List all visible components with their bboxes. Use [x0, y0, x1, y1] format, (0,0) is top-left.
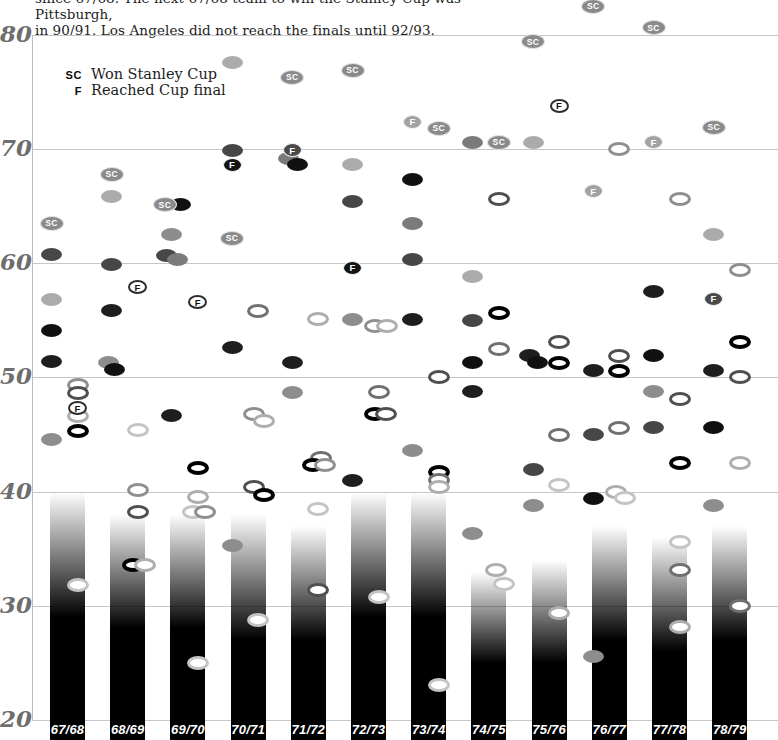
season-backdrop-74-75 — [471, 572, 506, 740]
season-label-box-67-68: 67/68 — [50, 718, 85, 740]
ring-pit — [187, 461, 209, 475]
annotation-line-1: since 67/68. The next 67/68 team to win … — [35, 0, 515, 22]
dot-chi — [462, 356, 483, 369]
ring-pit — [253, 488, 275, 502]
ring-pit — [729, 335, 751, 349]
dot-bos — [41, 293, 62, 306]
legend: SC Won Stanley Cup F Reached Cup final — [58, 66, 226, 98]
ring-la — [428, 370, 450, 384]
season-label-78-79: 78/79 — [713, 722, 747, 737]
f-badge-key: F — [58, 85, 82, 97]
season-backdrop-76-77 — [592, 526, 627, 740]
ring-cle — [669, 535, 691, 549]
dot-nyr — [583, 428, 604, 441]
badge-f-bos: F — [644, 135, 663, 149]
season-label-76-77: 76/77 — [593, 722, 627, 737]
badge-f-chi: F — [223, 158, 242, 172]
season-label-box-71-72: 71/72 — [291, 718, 326, 740]
gridline-50 — [32, 377, 778, 378]
dot-chi — [703, 421, 724, 434]
season-backdrop-72-73 — [351, 492, 386, 740]
badge-f-stl: F — [128, 280, 147, 294]
season-label-77-78: 77/78 — [653, 722, 687, 737]
season-backdrop-71-72 — [291, 526, 326, 740]
legend-label-f: Reached Cup final — [91, 82, 226, 98]
legend-label-sc: Won Stanley Cup — [91, 66, 217, 82]
season-label-box-70-71: 70/71 — [231, 718, 266, 740]
y-tick-label-80: 80 — [0, 21, 29, 47]
ring-la — [548, 335, 570, 349]
dot-tor — [282, 356, 303, 369]
ring-phi — [127, 483, 149, 497]
badge-f-nyr: F — [283, 143, 302, 157]
ring-cal — [548, 478, 570, 492]
dot-mtl — [462, 136, 483, 149]
ring-stl — [729, 599, 751, 613]
badge-sc-bos: SC — [153, 197, 177, 212]
dot-det — [222, 539, 243, 552]
season-backdrop-73-74 — [411, 492, 446, 740]
badge-f-nyr: F — [704, 292, 723, 306]
ring-min — [187, 490, 209, 504]
season-label-72-73: 72/73 — [352, 722, 386, 737]
badge-f-chi: F — [343, 261, 362, 275]
season-label-box-69-70: 69/70 — [170, 718, 205, 740]
dot-det — [402, 444, 423, 457]
ring-min — [729, 456, 751, 470]
dot-nyr — [101, 258, 122, 271]
badge-sc-mtl: SC — [642, 20, 666, 35]
ring-la — [375, 407, 397, 421]
ring-la — [307, 583, 329, 597]
ring-la — [669, 392, 691, 406]
ring-la — [729, 370, 751, 384]
y-tick-label-60: 60 — [0, 249, 29, 275]
season-label-73-74: 73/74 — [412, 722, 446, 737]
badge-f-bos: F — [584, 184, 603, 198]
ring-min — [376, 319, 398, 333]
dot-det — [282, 386, 303, 399]
season-label-box-76-77: 76/77 — [592, 718, 627, 740]
dot-nyr — [462, 314, 483, 327]
dot-nyr — [41, 248, 62, 261]
ring-cal — [368, 590, 390, 604]
dot-chi — [527, 356, 548, 369]
ring-pit — [548, 356, 570, 370]
gridline-80 — [32, 35, 778, 36]
ring-pit — [67, 424, 89, 438]
dot-det — [703, 499, 724, 512]
ring-la — [187, 656, 209, 670]
ring-phi — [608, 142, 630, 156]
dot-nyr — [643, 421, 664, 434]
y-tick-label-30: 30 — [0, 592, 29, 618]
season-label-69-70: 69/70 — [171, 722, 205, 737]
dot-tor — [703, 364, 724, 377]
badge-f-bos: F — [403, 115, 422, 129]
y-tick-label-40: 40 — [0, 478, 29, 504]
dot-tor — [101, 304, 122, 317]
season-label-74-75: 74/75 — [472, 722, 506, 737]
ring-min — [253, 414, 275, 428]
season-label-box-77-78: 77/78 — [652, 718, 687, 740]
dot-mtl — [167, 253, 188, 266]
badge-sc-mtl: SC — [521, 34, 545, 49]
dot-det — [643, 385, 664, 398]
legend-row-f: F Reached Cup final — [58, 82, 226, 98]
ring-la — [608, 349, 630, 363]
ring-pit — [608, 364, 630, 378]
badge-sc-mtl: SC — [702, 120, 726, 135]
ring-stl — [669, 563, 691, 577]
ring-stl — [488, 342, 510, 356]
badge-f-stl: F — [188, 295, 207, 309]
ring-min — [134, 558, 156, 572]
ring-min — [307, 312, 329, 326]
dot-bos — [462, 270, 483, 283]
dot-tor — [402, 313, 423, 326]
dot-chi — [287, 158, 308, 171]
dot-nyr — [342, 195, 363, 208]
gridline-70 — [32, 149, 778, 150]
ring-min — [428, 480, 450, 494]
dot-chi — [583, 492, 604, 505]
y-axis-line — [32, 35, 33, 720]
ring-la — [67, 386, 89, 400]
dot-tor — [583, 364, 604, 377]
